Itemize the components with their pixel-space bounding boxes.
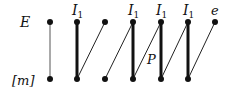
row-label-bottom: [m] bbox=[12, 73, 35, 88]
top-node-0 bbox=[47, 19, 53, 25]
column-label-1: I1 bbox=[71, 2, 83, 20]
bottom-node-4 bbox=[158, 76, 164, 82]
bottom-node-1 bbox=[74, 76, 80, 82]
bottom-node-5 bbox=[185, 76, 191, 82]
row-label-top: E bbox=[19, 14, 30, 30]
bottom-node-0 bbox=[47, 76, 53, 82]
top-node-2 bbox=[102, 19, 108, 25]
column-label-5: I1 bbox=[182, 2, 194, 20]
column-label-4: I1 bbox=[155, 2, 167, 20]
top-node-6 bbox=[212, 19, 218, 25]
column-label-3: I1 bbox=[127, 2, 139, 20]
edge-diagonal-2-3 bbox=[105, 22, 133, 79]
bipartite-diagram: E [m] I1 I1 I1 I1 e P bbox=[0, 0, 231, 88]
edge-diagonal-5-6 bbox=[188, 22, 215, 79]
edge-diagonal-1-2 bbox=[77, 22, 105, 79]
column-label-6: e bbox=[211, 3, 219, 18]
bottom-node-2 bbox=[102, 76, 108, 82]
diagram-canvas: E [m] I1 I1 I1 I1 e P bbox=[0, 0, 231, 88]
bottom-node-3 bbox=[130, 76, 136, 82]
edge-diagonal-4-5 bbox=[161, 22, 188, 79]
edge-diagonal-3-4 bbox=[133, 22, 161, 79]
edge-label-p: P bbox=[146, 52, 156, 67]
